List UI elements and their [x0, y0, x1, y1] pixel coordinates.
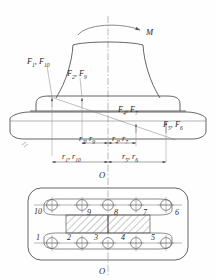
force-label-f1-f10: F1, F10: [26, 57, 50, 68]
plan-bolt-6-number: 6: [175, 208, 179, 217]
dim-label-r4-r7: r4, r7: [112, 134, 128, 145]
moment-label: M: [145, 27, 154, 37]
dim-label-r5-r6: r5, r6: [122, 152, 138, 163]
plan-bolt-10: 10: [34, 197, 60, 216]
dim-label-r2-r9: r2, r9: [79, 134, 95, 145]
force-label-f5-f6-text: F5, F6: [162, 120, 183, 131]
plan-bolt-8: 8: [100, 200, 118, 217]
svg-text:F2, F9: F2, F9: [66, 69, 87, 80]
plan-bolt-9-number: 9: [87, 208, 91, 217]
moment-arc-icon: [78, 25, 140, 35]
plan-bolt-3: 3: [93, 233, 116, 248]
svg-text:F5, F6: F5, F6: [162, 120, 183, 131]
plan-bolt-5-number: 5: [151, 233, 155, 242]
force-label-f2-f9-text: F2, F9: [66, 69, 87, 80]
plan-bolt-7: 7: [128, 197, 148, 217]
figure-canvas: M F1, F10 F2, F9 F4, F7: [0, 0, 216, 280]
force-label-f2-f9: F2, F9: [66, 69, 87, 80]
leader-f1: [47, 66, 52, 97]
plan-bolt-9: 9: [74, 197, 91, 217]
dim-label-r1-r10: r1, r10: [62, 152, 81, 163]
force-label-f5-f6: F5, F6: [162, 120, 183, 131]
plan-bolt-4-number: 4: [121, 233, 125, 242]
plan-bolt-10-number: 10: [34, 207, 42, 216]
axis-label-top: O: [99, 170, 105, 180]
plan-bolt-3-number: 3: [93, 233, 98, 242]
plan-bolt-1-number: 1: [36, 233, 40, 242]
plan-bolt-2-number: 2: [67, 233, 71, 242]
force-label-f4-f7: F4, F7: [117, 105, 138, 116]
leader-f2: [80, 78, 82, 97]
force-label-f1-f10-text: F1, F10: [26, 57, 50, 68]
plan-bolt-1: 1: [36, 233, 60, 251]
section-hatch-mark: [22, 142, 28, 147]
axis-label-bottom: O: [99, 266, 105, 276]
svg-text:F1, F10: F1, F10: [26, 57, 50, 68]
plan-bolt-4: 4: [121, 233, 144, 251]
plan-bolt-2: 2: [67, 233, 90, 251]
plan-hatch-right: [108, 215, 150, 233]
column-right-flare: [143, 45, 160, 98]
engineering-diagram: M F1, F10 F2, F9 F4, F7: [0, 0, 216, 280]
force-label-f4-f7-text: F4, F7: [117, 105, 138, 116]
plan-hatch-left: [66, 215, 108, 233]
plan-bolt-8-number: 8: [114, 208, 118, 217]
svg-text:F4, F7: F4, F7: [117, 105, 138, 116]
